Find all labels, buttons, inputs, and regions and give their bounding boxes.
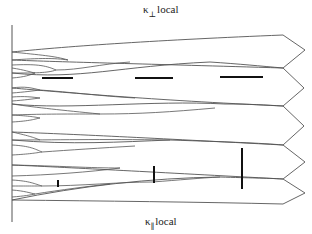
branch-line	[12, 97, 40, 98]
chevron-boundary	[283, 35, 305, 204]
main-line	[12, 103, 283, 106]
main-line	[12, 140, 283, 145]
branch-line	[40, 90, 135, 98]
branch-lines	[12, 52, 220, 197]
kappa-parallel-local-label: κ∥local	[145, 215, 177, 227]
perp-subscript: ⊥	[149, 10, 157, 19]
branch-line	[12, 98, 40, 101]
branch-line	[42, 146, 135, 152]
label-text: local	[155, 215, 176, 227]
branch-line	[12, 180, 42, 186]
branch-line	[12, 190, 35, 194]
branch-line	[12, 68, 35, 73]
branch-line	[12, 115, 40, 118]
branching-diagram	[0, 0, 312, 234]
parallel-subscript: ∥	[151, 222, 155, 231]
label-text: local	[157, 3, 178, 15]
chevron-line	[283, 35, 305, 204]
branch-line	[12, 118, 40, 122]
main-line	[12, 35, 283, 52]
branch-line	[12, 168, 120, 176]
kappa-symbol: κ	[143, 3, 149, 15]
kappa-perp-local-label: κ⊥local	[143, 3, 178, 15]
kappa-symbol: κ	[145, 215, 151, 227]
branch-line	[56, 62, 130, 70]
branch-line	[12, 90, 40, 93]
branch-line	[12, 114, 100, 115]
diagram-canvas	[0, 0, 312, 234]
main-line	[12, 200, 283, 204]
branch-line	[100, 108, 215, 114]
horizontal-bars	[42, 77, 263, 78]
branch-line	[12, 59, 68, 61]
branch-line	[12, 145, 42, 152]
branch-line	[12, 152, 42, 155]
